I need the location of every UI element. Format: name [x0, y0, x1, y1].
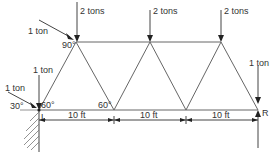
load-label-right-support: 1 ton — [249, 58, 269, 68]
dimension-label-1: 10 ft — [68, 110, 86, 120]
member-T2-B2 — [150, 42, 186, 110]
angle-label-top-left: 90° — [62, 40, 76, 50]
dimension-label-2: 10 ft — [140, 110, 158, 120]
angle-label-inclined-left: 30° — [10, 101, 24, 111]
dimension-label-3: 10 ft — [212, 110, 230, 120]
angle-label-left-support: 60° — [41, 100, 55, 110]
member-T3-R — [221, 42, 258, 110]
member-B1-T2 — [114, 42, 150, 110]
load-label-top-middle: 2 tons — [153, 6, 178, 16]
angle-label-bottom-middle: 60° — [98, 100, 112, 110]
inclined-load-label-top: 1 ton — [28, 26, 48, 36]
load-arrow-right-support — [255, 66, 261, 104]
inclined-load-label-left: 1 ton — [5, 83, 25, 93]
support-label-right: R — [262, 108, 269, 118]
load-label-top-right: 2 tons — [224, 6, 249, 16]
load-label-left-support: 1 ton — [33, 65, 53, 75]
truss-diagram: 2 tons 2 tons 2 tons 1 ton 90° 1 ton 1 t… — [0, 0, 271, 158]
load-label-top-left: 2 tons — [80, 6, 105, 16]
fixed-wall — [20, 110, 39, 152]
member-B2-T3 — [186, 42, 221, 110]
truss-members — [39, 42, 258, 110]
reaction-arrow-right — [255, 110, 261, 148]
